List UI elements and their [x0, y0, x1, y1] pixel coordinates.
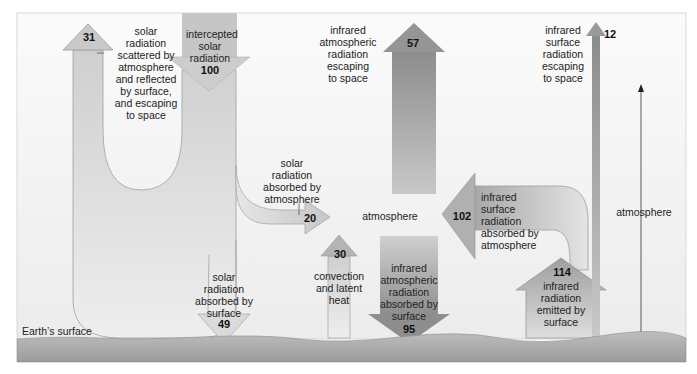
label-scattered: solarradiationscattered byatmosphereand … — [112, 25, 180, 121]
label-absorbed-surface: solarradiationabsorbed bysurface — [195, 271, 253, 319]
label-ir-atm-absorbed: infraredatmosphericradiationabsorbed bys… — [379, 262, 439, 322]
label-ir-atm-escaping: infraredatmosphericradiationescapingto s… — [318, 24, 378, 84]
atmosphere-center-label: atmosphere — [360, 210, 420, 222]
label-ir-emitted: infraredradiationemitted bysurface — [532, 280, 590, 328]
earth-surface-label: Earth’s surface — [22, 325, 102, 337]
value-30: 30 — [330, 248, 350, 260]
value-20: 20 — [300, 212, 320, 224]
value-100: 100 — [195, 64, 225, 76]
value-12: 12 — [604, 28, 618, 40]
arrow-12-shaft — [592, 34, 600, 338]
energy-budget-diagram: 31 100 20 49 30 57 95 102 114 12 solarra… — [0, 0, 697, 374]
label-intercepted: interceptedsolarradiation — [186, 28, 234, 64]
label-absorbed-atmosphere: solarradiationabsorbed byatmosphere — [262, 157, 322, 205]
value-49: 49 — [214, 318, 234, 330]
label-ir-surface-absorbed: infraredsurfaceradiationabsorbed byatmos… — [481, 191, 551, 251]
value-114: 114 — [548, 266, 576, 278]
value-31: 31 — [78, 31, 100, 43]
value-95: 95 — [398, 323, 420, 335]
label-ir-surface-escaping: infraredsurfaceradiationescapingto space — [538, 24, 588, 84]
value-102: 102 — [448, 210, 476, 222]
value-57: 57 — [400, 37, 426, 49]
arrow-57-shaft — [392, 50, 436, 194]
atmosphere-side-label: atmosphere — [612, 206, 676, 218]
label-convection: convectionand latentheat — [309, 270, 369, 306]
